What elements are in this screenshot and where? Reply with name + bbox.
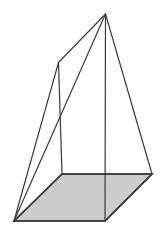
edge-apex-to-back-top [59, 14, 106, 63]
pyramid-diagram [0, 0, 164, 236]
edge-apex-to-base-right [106, 14, 153, 174]
figure-canvas [0, 0, 164, 236]
edge-apex-to-base-front [105, 14, 106, 221]
pyramid-base-face [14, 174, 152, 221]
